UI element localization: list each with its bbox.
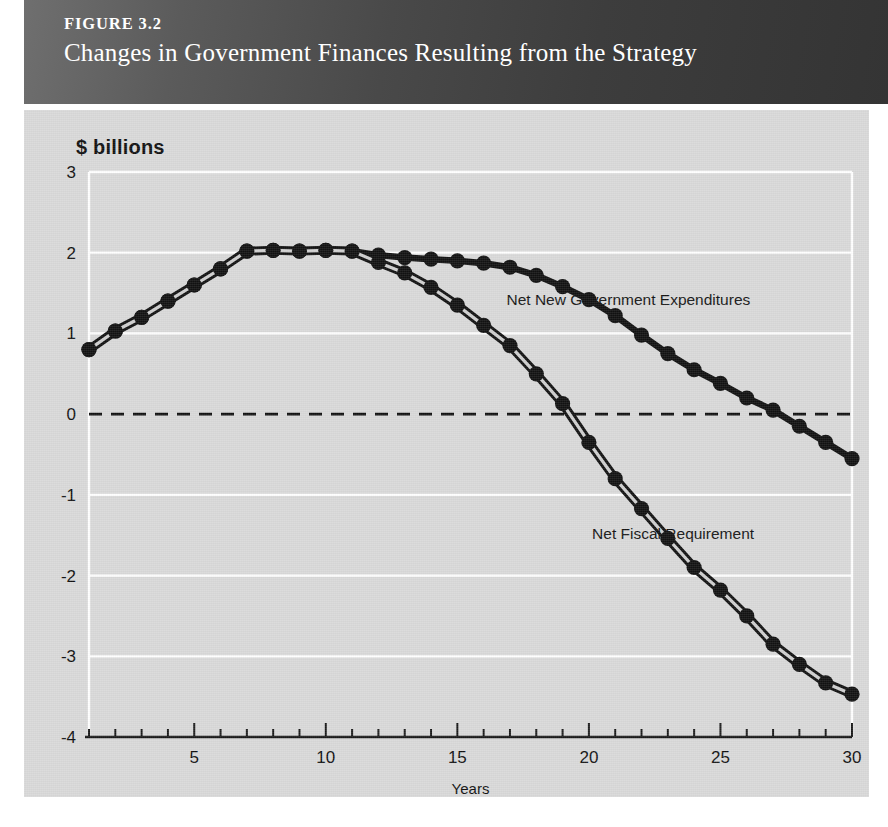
data-point-marker (739, 608, 754, 623)
data-point-marker (529, 268, 544, 283)
figure-number: FIGURE 3.2 (64, 14, 888, 34)
y-axis-tick-label: -1 (61, 486, 76, 505)
data-series-group (81, 243, 859, 702)
data-point-marker (450, 253, 465, 268)
data-point-marker (160, 294, 175, 309)
data-point-marker (713, 376, 728, 391)
data-point-marker (266, 243, 281, 258)
data-point-marker (213, 261, 228, 276)
data-point-marker (660, 346, 675, 361)
data-point-marker (187, 277, 202, 292)
y-axis-tick-label: 2 (67, 244, 76, 263)
chart-panel: $ billions 3210-1-2-3-4 51015202530 Net … (24, 110, 869, 797)
data-point-marker (608, 308, 623, 323)
data-point-marker (844, 451, 859, 466)
x-axis-tick-labels: 51015202530 (190, 748, 862, 767)
gridlines (85, 172, 852, 737)
data-point-marker (687, 560, 702, 575)
data-point-marker (739, 390, 754, 405)
figure-container: FIGURE 3.2 Changes in Government Finance… (0, 0, 888, 827)
data-point-marker (713, 583, 728, 598)
data-point-marker (345, 244, 360, 259)
figure-title: Changes in Government Finances Resulting… (64, 39, 888, 67)
data-point-marker (792, 419, 807, 434)
x-axis-tick-label: 25 (711, 748, 730, 767)
y-axis-tick-labels: 3210-1-2-3-4 (61, 163, 76, 747)
data-point-marker (608, 471, 623, 486)
y-axis-tick-label: 3 (67, 163, 76, 182)
y-axis-tick-label: -3 (61, 647, 76, 666)
data-point-marker (423, 252, 438, 267)
data-point-marker (529, 366, 544, 381)
data-point-marker (397, 265, 412, 280)
data-point-marker (765, 403, 780, 418)
data-point-marker (581, 435, 596, 450)
data-point-marker (423, 280, 438, 295)
data-point-marker (634, 501, 649, 516)
figure-header-banner: FIGURE 3.2 Changes in Government Finance… (24, 0, 888, 104)
x-axis-tick-label: 15 (448, 748, 467, 767)
data-point-marker (502, 260, 517, 275)
line-chart: 3210-1-2-3-4 51015202530 Net New Governm… (24, 110, 869, 797)
data-point-marker (555, 396, 570, 411)
data-point-marker (108, 323, 123, 338)
y-axis-tick-label: -2 (61, 567, 76, 586)
x-axis-ticks (89, 723, 852, 737)
y-axis-tick-label: 1 (67, 324, 76, 343)
data-point-marker (844, 687, 859, 702)
data-point-marker (318, 243, 333, 258)
y-axis-tick-label: -4 (61, 728, 76, 747)
y-axis-tick-label: 0 (67, 405, 76, 424)
x-axis-tick-label: 20 (579, 748, 598, 767)
data-point-marker (818, 435, 833, 450)
data-point-marker (397, 250, 412, 265)
data-point-marker (687, 362, 702, 377)
data-point-marker (476, 318, 491, 333)
data-point-marker (792, 657, 807, 672)
data-point-marker (765, 637, 780, 652)
data-point-marker (450, 298, 465, 313)
series-label: Net New Government Expenditures (506, 291, 750, 308)
data-point-marker (476, 256, 491, 271)
data-point-marker (239, 244, 254, 259)
x-axis-tick-label: 5 (190, 748, 199, 767)
data-point-marker (292, 244, 307, 259)
data-point-marker (134, 310, 149, 325)
data-point-marker (81, 342, 96, 357)
x-axis-tick-label: 30 (843, 748, 862, 767)
x-axis-tick-label: 10 (316, 748, 335, 767)
series-label: Net Fiscal Requirement (592, 525, 755, 542)
x-axis-title: Years (452, 780, 490, 797)
data-point-marker (371, 255, 386, 270)
series-line-inner (89, 250, 852, 694)
data-point-marker (818, 675, 833, 690)
data-point-marker (634, 327, 649, 342)
data-point-marker (502, 338, 517, 353)
